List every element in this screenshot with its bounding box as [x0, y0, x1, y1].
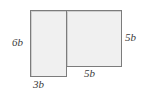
right-rectangle — [66, 10, 122, 67]
dimension-label-left-height: 6b — [12, 37, 23, 48]
composite-figure-diagram: 6b 5b 3b 5b — [0, 0, 148, 94]
dimension-label-right-height: 5b — [125, 32, 136, 43]
left-rectangle — [30, 10, 67, 77]
dimension-label-bottom-right-width: 5b — [84, 68, 95, 79]
dimension-label-bottom-left-width: 3b — [33, 79, 44, 90]
